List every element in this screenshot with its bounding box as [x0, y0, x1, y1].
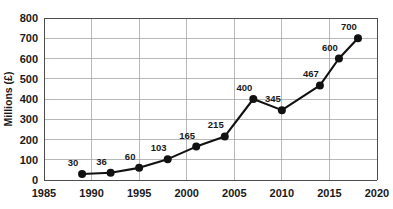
data-point-1989 — [78, 170, 86, 178]
y-tick-label-200: 200 — [20, 134, 38, 146]
x-tick-label-2020: 2020 — [365, 187, 389, 199]
y-tick-label-500: 500 — [20, 73, 38, 85]
point-label-1998: 103 — [151, 142, 167, 153]
point-label-1992: 36 — [96, 156, 107, 167]
y-axis-tick-labels: 0100200300400500600700800 — [20, 12, 38, 186]
data-point-2016 — [335, 55, 343, 63]
point-label-2018: 700 — [341, 21, 357, 32]
data-point-1995 — [135, 164, 143, 172]
point-label-2004: 215 — [208, 119, 225, 130]
y-tick-label-700: 700 — [20, 32, 38, 44]
x-tick-label-2000: 2000 — [174, 187, 198, 199]
y-tick-label-400: 400 — [20, 93, 38, 105]
x-tick-label-1995: 1995 — [127, 187, 151, 199]
data-point-2014 — [316, 81, 324, 89]
x-tick-label-1990: 1990 — [79, 187, 103, 199]
chart-canvas: 0100200300400500600700800 19851990199520… — [0, 0, 393, 209]
y-tick-label-0: 0 — [32, 174, 38, 186]
data-point-2004 — [221, 132, 229, 140]
data-point-2018 — [354, 34, 362, 42]
x-tick-label-2015: 2015 — [317, 187, 341, 199]
y-tick-label-800: 800 — [20, 12, 38, 24]
line-chart: 0100200300400500600700800 19851990199520… — [0, 0, 393, 209]
point-label-2014: 467 — [303, 68, 319, 79]
y-tick-label-300: 300 — [20, 113, 38, 125]
x-tick-label-2010: 2010 — [270, 187, 294, 199]
data-point-2001 — [192, 143, 200, 151]
x-tick-label-2005: 2005 — [222, 187, 246, 199]
data-point-2007 — [249, 95, 257, 103]
point-label-2001: 165 — [179, 130, 196, 141]
y-axis-title: Millions (£) — [2, 72, 14, 127]
point-label-1995: 60 — [125, 151, 136, 162]
data-point-2010 — [278, 106, 286, 114]
y-tick-label-600: 600 — [20, 53, 38, 65]
data-point-1998 — [164, 155, 172, 163]
data-point-1992 — [107, 169, 115, 177]
point-label-2010: 345 — [265, 93, 282, 104]
point-label-2016: 600 — [322, 42, 338, 53]
y-tick-label-100: 100 — [20, 154, 38, 166]
x-tick-label-1985: 1985 — [32, 187, 56, 199]
point-label-1989: 30 — [68, 157, 79, 168]
x-axis-tick-labels: 19851990199520002005201020152020 — [32, 187, 389, 199]
point-label-2007: 400 — [236, 82, 252, 93]
